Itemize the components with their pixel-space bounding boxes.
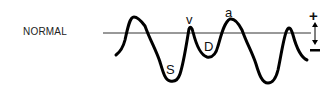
label-v: v [186, 12, 193, 27]
pressure-scale-indicator: + [309, 7, 320, 52]
label-a: a [225, 5, 233, 20]
minus-sign [310, 49, 320, 52]
label-d: D [204, 39, 213, 54]
plus-sign: + [309, 7, 318, 24]
waveform-diagram: S v D a + [0, 0, 334, 98]
arrow-down-icon [312, 40, 318, 45]
label-s: S [166, 62, 175, 77]
